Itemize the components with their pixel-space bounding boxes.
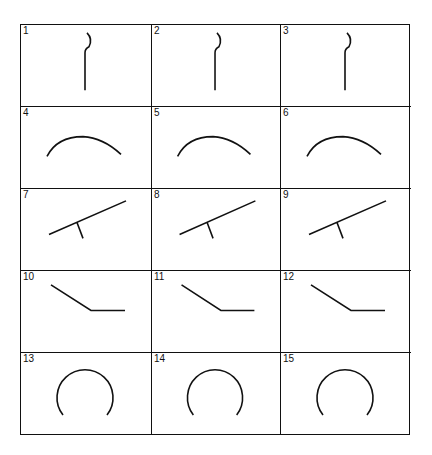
grid-cell-2: 2	[152, 25, 281, 107]
arc-icon	[21, 107, 151, 188]
open-circle-icon	[21, 353, 151, 435]
hook-line-icon	[152, 25, 280, 106]
arc-icon	[152, 107, 280, 188]
grid-cell-4: 4	[21, 107, 152, 189]
grid-cell-6: 6	[281, 107, 411, 189]
seesaw-icon	[281, 189, 411, 270]
seesaw-icon	[21, 189, 151, 270]
seesaw-icon	[152, 189, 280, 270]
grid-cell-13: 13	[21, 353, 152, 435]
grid-cell-10: 10	[21, 271, 152, 353]
grid-cell-5: 5	[152, 107, 281, 189]
hook-line-icon	[21, 25, 151, 106]
bent-line-icon	[21, 271, 151, 352]
bent-line-icon	[281, 271, 411, 352]
grid-cell-3: 3	[281, 25, 411, 107]
figure-grid: 123456789101112131415	[20, 24, 410, 435]
grid-cell-1: 1	[21, 25, 152, 107]
open-circle-icon	[281, 353, 411, 435]
grid-cell-7: 7	[21, 189, 152, 271]
arc-icon	[281, 107, 411, 188]
open-circle-icon	[152, 353, 280, 435]
grid-cell-11: 11	[152, 271, 281, 353]
grid-cell-14: 14	[152, 353, 281, 435]
hook-line-icon	[281, 25, 411, 106]
grid-cell-9: 9	[281, 189, 411, 271]
grid-cell-8: 8	[152, 189, 281, 271]
grid-cell-15: 15	[281, 353, 411, 435]
grid-cell-12: 12	[281, 271, 411, 353]
bent-line-icon	[152, 271, 280, 352]
